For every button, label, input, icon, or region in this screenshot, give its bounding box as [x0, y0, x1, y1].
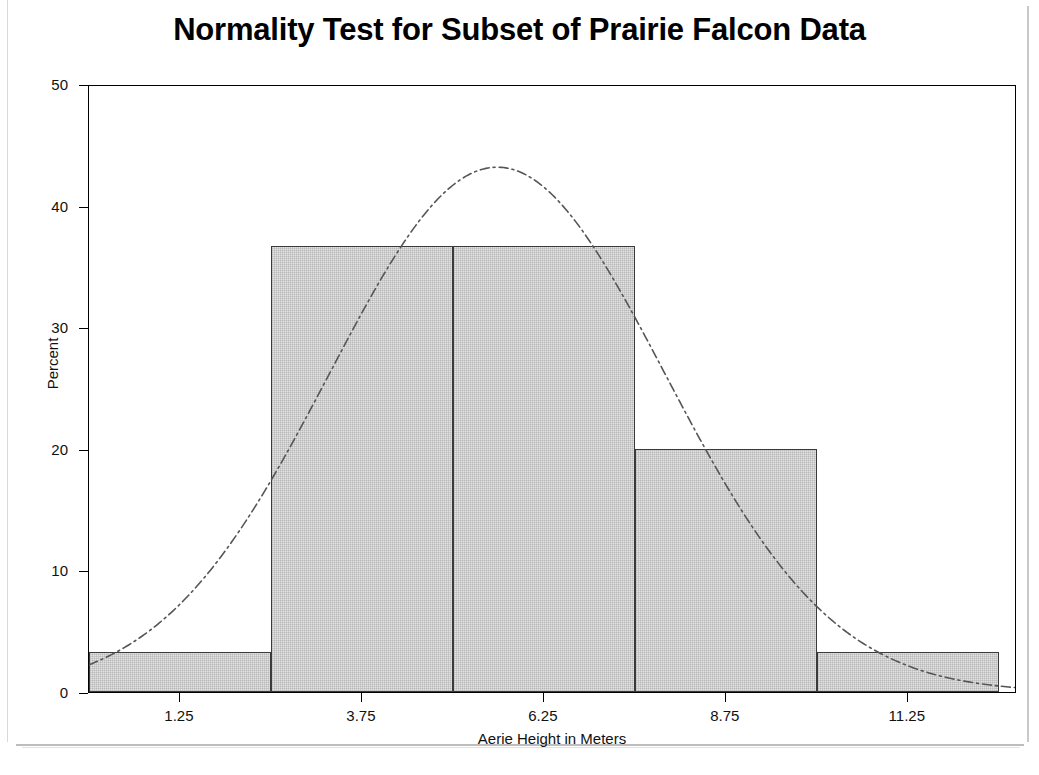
x-tick-label: 6.25	[498, 707, 588, 724]
histogram-bar	[271, 246, 453, 692]
x-axis-title: Aerie Height in Meters	[88, 730, 1016, 747]
histogram-bar	[817, 652, 999, 692]
y-tick-mark	[79, 571, 88, 572]
y-tick-mark	[79, 85, 88, 86]
page-edge-right	[1027, 6, 1029, 742]
plot-area	[88, 85, 1016, 693]
y-tick-label: 10	[16, 562, 68, 579]
y-tick-mark	[79, 693, 88, 694]
x-tick-mark	[543, 693, 544, 702]
plot-inner	[89, 86, 1015, 692]
page-edge-bottom-highlight	[22, 747, 1020, 748]
x-tick-label: 11.25	[862, 707, 952, 724]
histogram-bar	[635, 449, 817, 692]
x-tick-mark	[179, 693, 180, 702]
y-tick-label: 30	[16, 319, 68, 336]
y-tick-mark	[79, 450, 88, 451]
y-tick-label: 50	[16, 76, 68, 93]
x-tick-label: 3.75	[316, 707, 406, 724]
x-tick-mark	[907, 693, 908, 702]
y-tick-mark	[79, 207, 88, 208]
x-tick-label: 8.75	[680, 707, 770, 724]
y-tick-label: 20	[16, 441, 68, 458]
x-tick-label: 1.25	[134, 707, 224, 724]
x-tick-mark	[361, 693, 362, 702]
x-tick-mark	[725, 693, 726, 702]
histogram-bar	[453, 246, 635, 692]
histogram-bar	[89, 652, 271, 692]
y-tick-label: 0	[16, 684, 68, 701]
page-edge-left	[7, 0, 8, 742]
chart-figure: Normality Test for Subset of Prairie Fal…	[0, 0, 1039, 775]
y-tick-label: 40	[16, 198, 68, 215]
y-tick-mark	[79, 328, 88, 329]
chart-title: Normality Test for Subset of Prairie Fal…	[0, 12, 1039, 48]
